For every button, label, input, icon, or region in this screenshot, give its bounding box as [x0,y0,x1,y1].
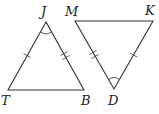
tick-mark-kd [130,53,137,57]
triangle-jtb-outline [8,22,84,90]
angle-mark-j [41,32,52,34]
triangle-mkd [75,21,153,89]
angle-mark-d [109,78,120,80]
vertex-label-b: B [80,93,91,108]
triangle-mkd-outline [75,21,153,89]
vertex-label-t: T [1,93,11,108]
tick-mark-md-1 [90,51,97,55]
triangle-jtb [8,22,84,90]
vertex-label-j: J [38,4,47,19]
vertex-label-m: M [64,4,79,19]
vertex-label-k: K [144,3,156,18]
vertex-label-d: D [107,93,119,108]
diagram-canvas: J T B M K D [0,0,159,114]
